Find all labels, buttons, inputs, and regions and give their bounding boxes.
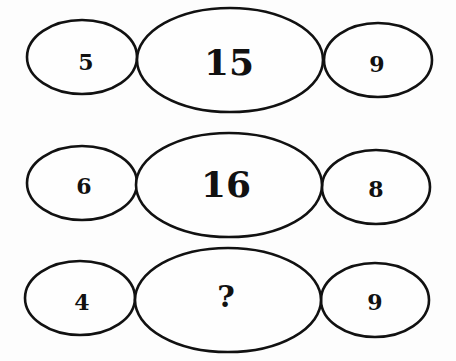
unknown-number: ? xyxy=(217,279,235,314)
right-number: 9 xyxy=(369,51,384,77)
center-number: 15 xyxy=(204,41,254,83)
left-number: 4 xyxy=(74,289,89,315)
center-number: 16 xyxy=(201,163,251,205)
right-number: 8 xyxy=(368,176,383,202)
puzzle-row-2: 6 16 8 xyxy=(27,133,430,237)
left-number: 6 xyxy=(76,173,91,199)
right-number: 9 xyxy=(367,289,382,315)
puzzle-row-3: 4 ? 9 xyxy=(25,248,429,352)
number-puzzle-diagram: 5 15 9 6 16 8 4 ? 9 xyxy=(0,0,456,361)
left-number: 5 xyxy=(78,49,93,75)
puzzle-row-1: 5 15 9 xyxy=(27,8,432,112)
